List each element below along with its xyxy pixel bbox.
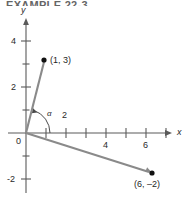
angle-alpha-label: α: [47, 110, 52, 118]
vector-to-6-minus2: [26, 133, 155, 176]
x-tick-label-6: 6: [143, 141, 148, 150]
y-tick-label-minus2: -2: [7, 175, 15, 184]
coordinate-plot: [0, 0, 191, 197]
origin-label: 0: [16, 137, 21, 146]
x-tick-label-2: 2: [62, 111, 67, 120]
point-label-6-minus2: (6, –2): [134, 180, 160, 189]
x-tick-label-4: 4: [103, 141, 108, 150]
y-axis: [23, 18, 29, 193]
y-tick-label-4: 4: [11, 37, 16, 46]
point-label-1-3: (1, 3): [50, 56, 71, 65]
figure-container: EXAMPLE 22-3: [0, 0, 191, 197]
vector-to-1-3: [26, 57, 47, 133]
x-axis-label: x: [177, 128, 182, 137]
y-tick-label-2: 2: [11, 83, 16, 92]
y-axis-label: y: [21, 6, 26, 15]
